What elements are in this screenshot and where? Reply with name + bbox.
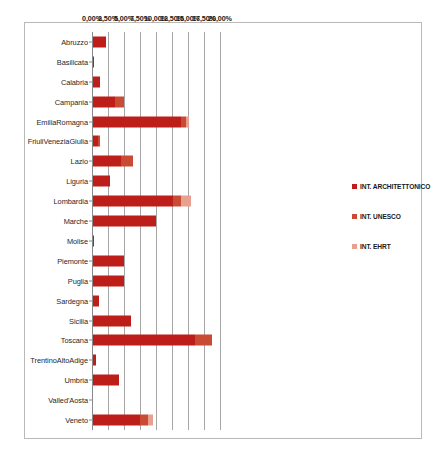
y-axis-category-label: Toscana xyxy=(61,336,88,345)
chart-bar-row: FriuliVeneziaGiulia xyxy=(0,132,448,152)
chart-bar-row: TrentinoAltoAdige xyxy=(0,350,448,370)
chart-bar-row: Sicilia xyxy=(0,311,448,331)
y-axis-line xyxy=(92,32,93,430)
bar-segment xyxy=(93,96,115,107)
stacked-bar xyxy=(93,295,99,306)
chart-bar-row: Basilicata xyxy=(0,52,448,72)
stacked-bar xyxy=(93,415,153,426)
stacked-bar xyxy=(93,56,94,67)
bar-segment xyxy=(93,196,173,207)
stacked-bar xyxy=(93,335,212,346)
bar-segment xyxy=(148,415,152,426)
y-axis-category-label: EmiliaRomagna xyxy=(36,117,88,126)
stacked-bar xyxy=(93,156,133,167)
legend-swatch-icon xyxy=(352,244,357,249)
bar-segment xyxy=(121,156,134,167)
bar-segment xyxy=(93,295,99,306)
bar-segment xyxy=(93,76,100,87)
stacked-bar xyxy=(93,255,124,266)
chart-bar-row: Puglia xyxy=(0,271,448,291)
stacked-bar xyxy=(93,216,156,227)
y-axis-category-label: Calabria xyxy=(61,77,88,86)
chart-bar-row: Lazio xyxy=(0,151,448,171)
chart-legend: INT. ARCHITETTONICOINT. UNESCOINT. EHRT xyxy=(352,182,444,272)
chart-bar-row: Veneto xyxy=(0,410,448,430)
bar-segment xyxy=(140,415,148,426)
y-axis-category-label: Valled'Aosta xyxy=(48,396,88,405)
bar-segment xyxy=(93,36,106,47)
stacked-bar xyxy=(93,235,94,246)
legend-item[interactable]: INT. UNESCO xyxy=(352,212,444,221)
legend-swatch-icon xyxy=(352,184,357,189)
chart-bar-row: Sardegna xyxy=(0,291,448,311)
bar-segment xyxy=(93,116,181,127)
y-axis-category-label: Campania xyxy=(55,97,88,106)
y-axis-category-label: Marche xyxy=(64,217,88,226)
chart-bar-row: Toscana xyxy=(0,331,448,351)
legend-swatch-icon xyxy=(352,214,357,219)
bar-segment xyxy=(93,355,96,366)
stacked-bar xyxy=(93,116,189,127)
y-axis-category-label: Molise xyxy=(67,236,88,245)
y-axis-category-label: Liguria xyxy=(66,177,88,186)
bar-segment xyxy=(98,136,100,147)
stacked-bar xyxy=(93,136,100,147)
y-axis-category-label: Lazio xyxy=(71,157,88,166)
x-axis-tick-label: 20,00% xyxy=(208,14,232,23)
legend-item[interactable]: INT. EHRT xyxy=(352,242,444,251)
y-axis-category-label: Sicilia xyxy=(69,316,88,325)
bar-segment xyxy=(93,375,119,386)
y-axis-category-label: Sardegna xyxy=(56,296,88,305)
bar-segment xyxy=(93,216,156,227)
bar-segment xyxy=(186,116,189,127)
bar-segment xyxy=(93,156,121,167)
stacked-bar xyxy=(93,176,110,187)
chart-bar-row: Abruzzo xyxy=(0,32,448,52)
y-axis-category-label: Piemonte xyxy=(57,256,88,265)
stacked-bar xyxy=(93,96,124,107)
stacked-bar xyxy=(93,36,106,47)
stacked-bar xyxy=(93,275,124,286)
bar-segment xyxy=(173,196,181,207)
stacked-bar xyxy=(93,315,131,326)
legend-item[interactable]: INT. ARCHITETTONICO xyxy=(352,182,444,191)
bar-segment xyxy=(181,196,191,207)
stacked-bar xyxy=(93,375,119,386)
y-axis-category-label: Veneto xyxy=(65,416,88,425)
bar-segment xyxy=(93,56,94,67)
x-axis-tick-labels: 0,00%2,50%5,00%7,50%10,00%12,50%15,00%17… xyxy=(0,0,448,18)
y-axis-category-label: TrentinoAltoAdige xyxy=(30,356,88,365)
bar-segment xyxy=(93,335,195,346)
stacked-bar xyxy=(93,76,100,87)
bar-segment xyxy=(93,235,94,246)
y-axis-category-label: Abruzzo xyxy=(61,37,88,46)
chart-bar-row: Calabria xyxy=(0,72,448,92)
bar-segment xyxy=(115,96,124,107)
bar-segment xyxy=(93,315,131,326)
bar-segment xyxy=(93,415,140,426)
bar-segment xyxy=(93,176,110,187)
y-axis-category-label: Puglia xyxy=(68,276,88,285)
chart-bar-row: Campania xyxy=(0,92,448,112)
bar-segment xyxy=(93,255,124,266)
stacked-bar xyxy=(93,355,96,366)
bar-segment xyxy=(195,335,212,346)
legend-label: INT. ARCHITETTONICO xyxy=(360,183,430,190)
chart-bar-row: EmiliaRomagna xyxy=(0,112,448,132)
y-axis-category-label: Basilicata xyxy=(57,57,88,66)
stacked-bar xyxy=(93,196,191,207)
legend-label: INT. EHRT xyxy=(360,243,391,250)
y-axis-category-label: FriuliVeneziaGiulia xyxy=(28,137,88,146)
chart-bar-row: Valled'Aosta xyxy=(0,390,448,410)
y-axis-category-label: Umbria xyxy=(64,376,88,385)
y-axis-category-label: Lombardia xyxy=(54,197,88,206)
bar-segment xyxy=(93,275,124,286)
legend-label: INT. UNESCO xyxy=(360,213,401,220)
chart-bar-row: Umbria xyxy=(0,370,448,390)
chart-container: 0,00%2,50%5,00%7,50%10,00%12,50%15,00%17… xyxy=(0,0,448,470)
